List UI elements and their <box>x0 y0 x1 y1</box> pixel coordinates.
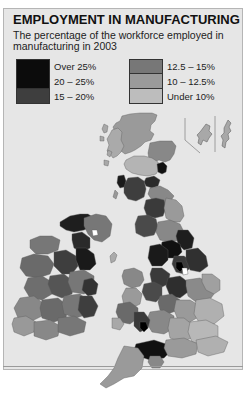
orkney-inset <box>197 124 212 145</box>
isle-of-man <box>110 252 117 263</box>
frame-divider <box>3 366 243 367</box>
choropleth-map <box>0 0 248 395</box>
wales <box>112 268 150 332</box>
republic-of-ireland <box>12 236 98 340</box>
inset-islands <box>185 116 231 153</box>
northern-ireland <box>60 214 112 252</box>
scotland <box>100 113 176 204</box>
shetland-inset <box>221 120 231 148</box>
england <box>100 198 228 388</box>
